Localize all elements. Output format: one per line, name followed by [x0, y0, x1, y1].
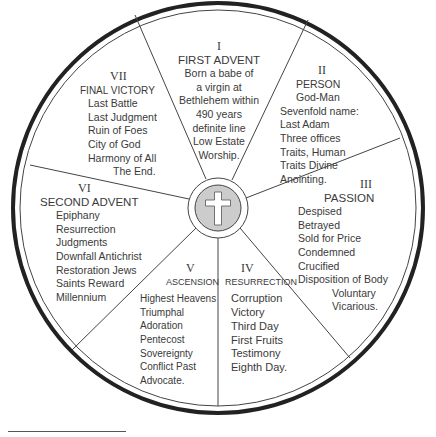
segment-item: Ruin of Foes: [80, 124, 180, 138]
segment-item: Betrayed: [298, 219, 428, 233]
segment-title: PASSION: [298, 192, 428, 206]
segment-person: II PERSON God-Man Sevenfold name: Last A…: [280, 64, 390, 186]
segment-item: Harmony of All: [80, 152, 180, 166]
segment-item: Testimony: [225, 347, 335, 361]
segment-resurrection: IV RESURRECTION Corruption Victory Third…: [225, 262, 335, 375]
segment-item: Sold for Price: [298, 232, 428, 246]
segment-item: Resurrection: [40, 223, 180, 237]
segment-item: Restoration Jews: [40, 264, 180, 278]
segment-item: Despised: [298, 205, 428, 219]
segment-item: Traits Divine: [280, 159, 390, 173]
segment-item: Corruption: [225, 292, 335, 306]
segment-item: The End.: [80, 165, 180, 179]
segment-numeral: VI: [40, 182, 180, 196]
footnote-rule: [8, 431, 126, 432]
segment-numeral: II: [280, 64, 390, 78]
segment-item: Millennium: [40, 291, 180, 305]
segment-item: Downfall Antichrist: [40, 250, 180, 264]
segment-item: Three offices: [280, 132, 390, 146]
segment-title: PERSON: [280, 78, 390, 92]
segment-item: Pentecost: [140, 333, 220, 347]
segment-item: Sevenfold name:: [280, 105, 390, 119]
segment-final-victory: VII FINAL VICTORY Last Battle Last Judgm…: [80, 70, 180, 179]
segment-title: SECOND ADVENT: [40, 196, 180, 210]
segment-item: Traits, Human: [280, 146, 390, 160]
segment-item: Conflict Past: [140, 360, 220, 374]
segment-second-advent: VI SECOND ADVENT Epiphany Resurrection J…: [40, 182, 180, 304]
segment-item: Triumphal: [140, 306, 220, 320]
segment-item: Victory: [225, 306, 335, 320]
segment-item: Saints Reward: [40, 277, 180, 291]
segment-item: First Fruits: [225, 334, 335, 348]
segment-item: City of God: [80, 138, 180, 152]
segment-numeral: I: [150, 40, 288, 54]
segment-item: Eighth Day.: [225, 361, 335, 375]
segment-title: RESURRECTION: [225, 276, 335, 290]
segment-item: Adoration: [140, 319, 220, 333]
segment-numeral: IV: [225, 262, 335, 276]
segment-item: Last Battle: [80, 97, 180, 111]
segment-item: Epiphany: [40, 209, 180, 223]
segment-item: Last Adam: [280, 118, 390, 132]
segment-title: FIRST ADVENT: [150, 54, 288, 68]
segment-item: God-Man: [280, 91, 390, 105]
segment-item: Judgments: [40, 236, 180, 250]
segment-item: Condemned: [298, 246, 428, 260]
segment-item: Advocate.: [140, 374, 220, 388]
segment-item: Third Day: [225, 320, 335, 334]
segment-numeral: VII: [80, 70, 180, 84]
segment-item: Last Judgment: [80, 111, 180, 125]
segment-title: FINAL VICTORY: [80, 84, 180, 98]
segment-numeral: III: [298, 178, 428, 192]
segment-item: Sovereignty: [140, 347, 220, 361]
